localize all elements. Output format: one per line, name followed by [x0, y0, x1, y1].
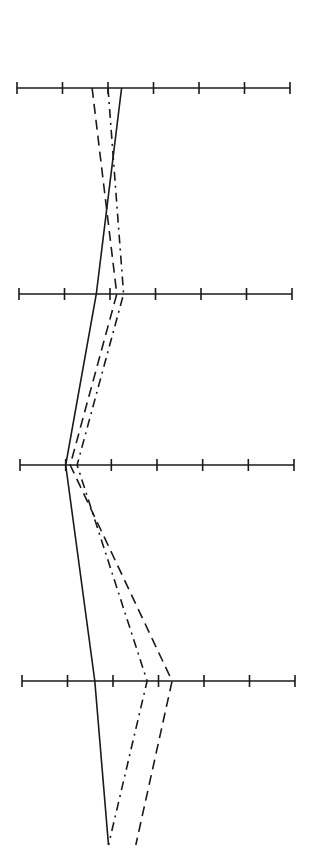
scale-axis-2	[19, 288, 292, 300]
scale-axis-4	[22, 675, 295, 687]
profile-series	[66, 88, 172, 845]
scale-axes	[17, 82, 295, 687]
profile-chart	[0, 0, 319, 850]
scale-axis-1	[17, 82, 290, 94]
scale-axis-3	[20, 459, 294, 471]
series-line-solid	[66, 88, 122, 845]
